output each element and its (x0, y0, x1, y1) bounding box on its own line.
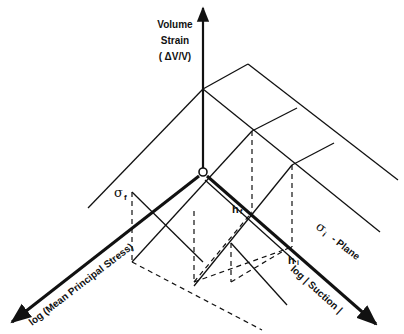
svg-text:σ: σ (313, 219, 329, 236)
sigma-f-label: σ f (114, 185, 127, 202)
constitutive-surface-diagram: Volume Strain ( ΔV/V) log (Mean Principa… (0, 0, 404, 334)
svg-text:σ: σ (114, 185, 123, 200)
svg-text:- Plane: - Plane (330, 233, 363, 262)
left-axis-mean-principal-stress (12, 176, 199, 322)
axis-label-line2: Strain (161, 35, 189, 46)
svg-text:i: i (297, 259, 299, 266)
left-axis-label: log (Mean Principal Stress) (27, 241, 136, 328)
state-surface-grid (88, 64, 398, 305)
vertical-axis-label: Volume Strain ( ΔV/V) (157, 19, 193, 62)
svg-text:h: h (232, 203, 239, 215)
axis-label-line1: Volume (157, 19, 193, 30)
axis-label-line3: ( ΔV/V) (159, 51, 191, 62)
origin-point (199, 168, 207, 176)
svg-text:f: f (124, 193, 127, 202)
svg-text:h: h (288, 254, 295, 266)
sigma-i-plane-label: σ i - Plane (313, 219, 365, 264)
